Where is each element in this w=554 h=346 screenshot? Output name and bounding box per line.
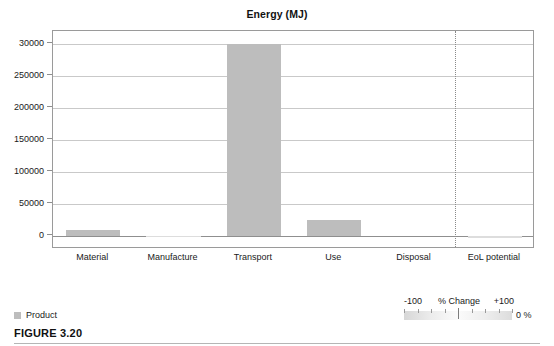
y-axis-tick-label: 30000 — [19, 38, 44, 48]
percent-change-title: % Change — [438, 296, 480, 306]
bar-slot — [214, 31, 294, 247]
caption-divider — [14, 343, 540, 344]
x-axis-label: Manufacture — [132, 252, 212, 262]
plot-area — [52, 30, 534, 248]
percent-scale-tick — [431, 309, 432, 313]
y-axis-tick-label: 200000 — [14, 102, 44, 112]
bar-slot — [53, 31, 133, 247]
percent-change-labels: -100 % Change +100 — [404, 296, 514, 308]
percent-change-max-label: +100 — [494, 296, 514, 306]
x-axis-label: Transport — [213, 252, 293, 262]
chart-title: Energy (MJ) — [0, 8, 554, 20]
legend-label-product: Product — [26, 310, 57, 320]
x-axis-label: Use — [293, 252, 373, 262]
y-axis-tick-label: 250000 — [14, 70, 44, 80]
y-axis-tick-label: 0 — [39, 230, 44, 240]
bar[interactable] — [468, 236, 523, 238]
y-axis-tick-label: 100000 — [14, 166, 44, 176]
x-axis-label: Disposal — [373, 252, 453, 262]
bar-slot — [294, 31, 374, 247]
percent-change-value: 0 % — [516, 310, 532, 320]
y-axis: 05000010000015000020000025000030000 — [0, 30, 52, 248]
bar[interactable] — [66, 230, 121, 236]
x-axis-label: EoL potential — [454, 252, 534, 262]
percent-scale-tick — [418, 309, 419, 313]
category-separator-line — [455, 31, 456, 247]
percent-change-min-label: -100 — [404, 296, 422, 306]
percent-scale-tick — [472, 309, 473, 313]
x-axis: MaterialManufactureTransportUseDisposalE… — [52, 252, 534, 270]
percent-scale-tick — [485, 309, 486, 313]
bar[interactable] — [307, 220, 362, 236]
percent-change-bar-row: 0 % — [404, 310, 532, 320]
bar[interactable] — [227, 44, 282, 236]
plot-inner — [53, 31, 533, 247]
percent-change-gradient-bar[interactable] — [404, 311, 512, 320]
percent-scale-tick — [404, 309, 405, 313]
legend-swatch-product — [14, 312, 21, 319]
figure-caption: FIGURE 3.20 — [14, 327, 82, 339]
percent-scale-tick — [499, 309, 500, 313]
percent-scale-tick — [512, 309, 513, 313]
percent-scale-tick — [445, 309, 446, 313]
bar-slot — [133, 31, 213, 247]
x-axis-label: Material — [52, 252, 132, 262]
percent-scale-tick — [458, 308, 459, 319]
bar-slot — [455, 31, 535, 247]
bar[interactable] — [146, 236, 201, 238]
figure-container: Energy (MJ) 0500001000001500002000002500… — [0, 0, 554, 346]
chart-legend: Product — [14, 310, 57, 320]
y-axis-tick-label: 150000 — [14, 134, 44, 144]
bar-slot — [374, 31, 454, 247]
percent-change-scale: -100 % Change +100 0 % — [404, 296, 550, 326]
y-axis-tick-label: 50000 — [19, 198, 44, 208]
